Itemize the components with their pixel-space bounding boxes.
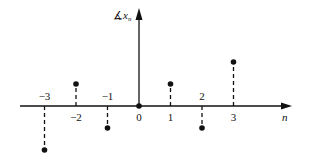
y-axis-label: ∡xn <box>113 9 132 23</box>
y-axis-arrow-icon <box>136 8 143 20</box>
data-point <box>73 81 79 87</box>
data-point <box>199 125 205 131</box>
data-point <box>42 147 48 153</box>
data-point <box>168 81 174 87</box>
x-axis-arrow-icon <box>281 103 292 110</box>
tick-label: −1 <box>102 90 114 102</box>
data-point <box>231 59 237 65</box>
tick-label: −2 <box>70 111 82 123</box>
tick-label: −3 <box>39 90 51 102</box>
data-point <box>105 125 111 131</box>
tick-label: 2 <box>199 90 205 102</box>
data-point <box>136 103 142 109</box>
tick-label: 1 <box>168 111 174 123</box>
tick-label: 3 <box>231 111 237 123</box>
x-axis-label: n <box>282 111 288 123</box>
y-axis-sub: n <box>128 15 132 23</box>
stem-plot: ∡xn n −3−2−10123 <box>0 0 322 162</box>
angle-symbol: ∡ <box>113 9 123 21</box>
tick-label: 0 <box>136 111 142 123</box>
